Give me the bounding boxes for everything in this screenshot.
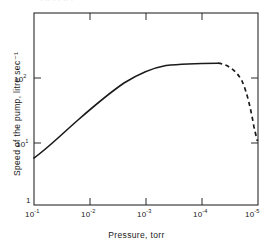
x-tick-label-1e-4: 10-4 bbox=[193, 208, 207, 219]
y-axis-ticks bbox=[34, 78, 41, 143]
x-axis-title: Pressure, torr bbox=[0, 230, 273, 240]
x-axis-ticks bbox=[90, 198, 202, 205]
x-axis-ticks-top bbox=[90, 13, 202, 20]
x-tick-label-1e-5: 10-5 bbox=[245, 208, 259, 219]
curve-extrapolated bbox=[218, 63, 257, 141]
x-tick-label-1e-2: 10-2 bbox=[81, 208, 95, 219]
curve-measured bbox=[34, 63, 218, 158]
y-tick-label-1: 1 bbox=[26, 196, 31, 205]
plot-frame bbox=[34, 13, 258, 205]
y-axis-title: Speed of the pump, litre sec⁻¹ bbox=[12, 29, 22, 199]
pumping-speed-chart: · ·· · · ·· · bbox=[0, 0, 273, 249]
x-tick-label-1e-3: 10-3 bbox=[137, 208, 151, 219]
y-axis-ticks-right bbox=[251, 78, 258, 143]
x-tick-label-1e-1: 10-1 bbox=[25, 208, 39, 219]
